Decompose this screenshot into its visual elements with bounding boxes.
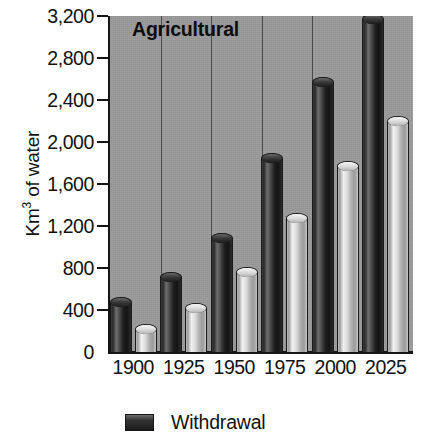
bar-body [236,272,258,352]
y-axis-tick-mark [97,99,108,101]
y-axis-tick-mark [97,267,108,269]
x-axis-tick-label: 1950 [214,356,255,379]
bar-body [160,277,182,352]
bar-body [211,238,233,352]
bar-body [286,218,308,352]
bar-body [110,302,132,352]
agricultural-water-bar-chart: Km3 of water 04008001,2001,6002,0002,400… [0,0,434,443]
y-axis-tick-mark [97,225,108,227]
y-axis-tick-label: 3,200 [26,5,94,28]
bar-1900-consumption [135,324,157,352]
y-axis-tick-label: 400 [26,299,94,322]
y-axis-tick-label: 2,800 [26,47,94,70]
bar-1925-withdrawal [160,272,182,352]
x-axis-tick-label: 2000 [315,356,356,379]
bar-1975-consumption [286,213,308,352]
bar-cap-highlight [262,154,282,163]
bar-1900-withdrawal [110,297,132,352]
bar-2000-consumption [337,161,359,352]
y-axis-tick-mark [97,15,108,17]
bar-cap-highlight [136,325,156,334]
bar-1975-withdrawal [261,153,283,353]
plot-area: Agricultural [108,16,413,352]
bar-cap-highlight [338,162,358,171]
legend-label-withdrawal: Withdrawal [171,411,265,434]
bar-body [362,19,384,352]
bar-body [185,308,207,352]
x-axis-tick-label: 1975 [264,356,305,379]
x-axis-tick-labels: 190019251950197520002025 [0,356,434,386]
x-axis-tick-label: 1925 [163,356,204,379]
y-axis-tick-mark [97,141,108,143]
bar-cap-highlight [237,268,257,277]
y-axis-tick-mark [97,309,108,311]
y-axis-tick-label: 2,000 [26,131,94,154]
bar-1950-consumption [236,267,258,352]
bar-cap-highlight [313,78,333,87]
bar-1925-consumption [185,303,207,352]
bar-1950-withdrawal [211,233,233,352]
bar-body [312,82,334,352]
y-axis-tick-label: 1,200 [26,215,94,238]
legend-swatch-withdrawal [125,414,154,431]
chart-title: Agricultural [132,18,239,41]
bar-body [387,121,409,352]
bar-body [261,158,283,353]
bar-2025-withdrawal [362,16,384,352]
bar-cap-highlight [186,304,206,313]
bar-2000-withdrawal [312,77,334,352]
bar-body [337,166,359,352]
x-axis-tick-label: 1900 [113,356,154,379]
bar-cap-highlight [388,117,408,126]
y-axis-tick-label: 2,400 [26,89,94,112]
bar-2025-consumption [387,116,409,352]
y-axis-tick-mark [97,183,108,185]
chart-legend: Withdrawal [125,411,265,434]
y-axis-tick-label: 800 [26,257,94,280]
y-axis-tick-mark [97,57,108,59]
x-axis-tick-label: 2025 [365,356,406,379]
y-axis-tick-label: 1,600 [26,173,94,196]
